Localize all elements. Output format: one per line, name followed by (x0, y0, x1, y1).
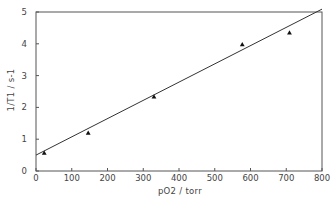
triangle-marker-icon (240, 42, 245, 46)
y-tick-label: 5 (22, 7, 27, 17)
fit-line (36, 9, 322, 155)
y-tick-label: 0 (22, 166, 27, 176)
x-tick-label: 800 (314, 173, 330, 183)
y-tick-label: 3 (22, 71, 27, 81)
y-tick-label: 1 (22, 134, 27, 144)
x-axis-label: pO2 / torr (158, 186, 202, 196)
plot-border (36, 12, 322, 171)
x-tick-label: 300 (135, 173, 151, 183)
y-axis-label: 1/T1 / s-1 (6, 68, 16, 111)
x-tick-label: 400 (171, 173, 187, 183)
triangle-marker-icon (287, 30, 292, 34)
triangle-marker-icon (86, 130, 91, 134)
y-tick-label: 2 (22, 102, 27, 112)
regression-line (36, 9, 322, 155)
x-tick-label: 500 (207, 173, 223, 183)
triangle-marker-icon (152, 94, 157, 98)
x-tick-label: 200 (99, 173, 115, 183)
x-tick-label: 600 (242, 173, 258, 183)
y-tick-label: 4 (22, 39, 27, 49)
triangle-marker-icon (42, 150, 47, 154)
data-points (42, 30, 292, 155)
x-tick-label: 0 (33, 173, 38, 183)
plot-frame (36, 12, 322, 171)
chart-canvas: 0100200300400500600700800 012345 pO2 / t… (0, 0, 335, 201)
x-axis-ticks: 0100200300400500600700800 (33, 168, 330, 183)
x-tick-label: 100 (64, 173, 80, 183)
x-tick-label: 700 (278, 173, 294, 183)
